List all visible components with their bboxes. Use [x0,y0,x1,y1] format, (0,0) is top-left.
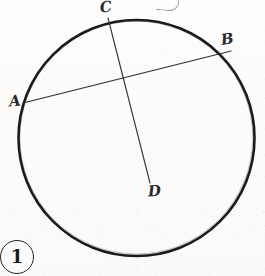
point-label-d: D [147,184,161,200]
segment-cd-line [108,18,150,183]
point-label-b: B [220,31,235,48]
main-circle-inner-echo [20,21,253,254]
figure-number-text: 1 [11,248,24,266]
figure-number-badge: 1 [0,240,34,274]
point-label-c: C [99,0,113,16]
figure-canvas: A B C D 1 [0,0,265,276]
point-label-a: A [8,93,21,109]
chord-ab-line [23,51,231,103]
